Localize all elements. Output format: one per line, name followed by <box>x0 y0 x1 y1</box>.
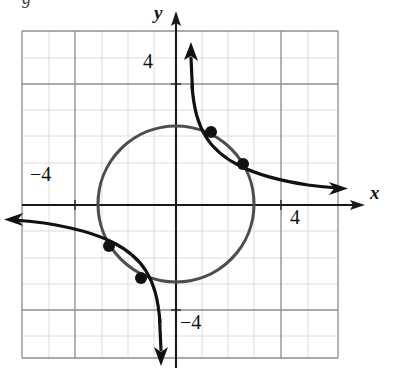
intersection-point-4 <box>135 272 147 284</box>
x-tick-label-negative: −4 <box>30 163 51 186</box>
intersection-point-1 <box>205 126 217 138</box>
y-tick-label-negative: −4 <box>180 311 201 334</box>
y-tick-label-positive: 4 <box>143 50 153 73</box>
x-tick-label-positive: 4 <box>290 206 300 229</box>
intersection-point-3 <box>103 240 115 252</box>
intersection-point-2 <box>237 158 249 170</box>
x-axis-label: x <box>370 182 380 204</box>
y-axis-label: y <box>154 2 162 24</box>
partial-figure-label: g <box>22 0 31 9</box>
